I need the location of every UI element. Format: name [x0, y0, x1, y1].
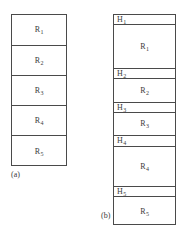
panel-b-header-label-3: H3	[117, 104, 126, 112]
panel-b-header-cell-3: H3	[114, 103, 175, 113]
panel-b-header-label-5: H5	[117, 188, 126, 196]
panel-b-header-cell-2: H2	[114, 69, 175, 79]
panel-b-record-cell-2: R2	[114, 79, 175, 103]
panel-a-record-subscript-5: 5	[40, 151, 43, 157]
panel-b-caption: (b)	[101, 212, 110, 220]
panel-b-header-cell-4: H4	[114, 136, 175, 147]
panel-b-header-cell-5: H5	[114, 187, 175, 197]
panel-b-record-subscript-5: 5	[146, 211, 149, 217]
panel-b-record-subscript-4: 4	[146, 166, 149, 172]
panel-a-record-subscript-1: 1	[40, 29, 43, 35]
panel-a-record-stack: R1R2R3R4R5	[11, 14, 67, 166]
panel-b-header-subscript-5: 5	[123, 191, 126, 197]
panel-b-header-subscript-3: 3	[123, 107, 126, 113]
panel-a-record-cell-3: R3	[12, 76, 66, 106]
panel-b-record-label-4: R4	[140, 163, 149, 171]
panel-a-record-label-4: R4	[35, 117, 44, 125]
panel-a-record-cell-5: R5	[12, 136, 66, 167]
panel-b-record-subscript-3: 3	[146, 123, 149, 129]
figure-canvas: R1R2R3R4R5 (a) H1R1H2R2H3R3H4R4H5R5 (b)	[0, 0, 188, 239]
panel-b-header-subscript-1: 1	[123, 19, 126, 25]
panel-b-record-cell-4: R4	[114, 147, 175, 187]
panel-b-header-label-2: H2	[117, 70, 126, 78]
panel-b-record-cell-3: R3	[114, 113, 175, 136]
panel-b-record-label-2: R2	[140, 87, 149, 95]
panel-a-record-subscript-4: 4	[40, 120, 43, 126]
panel-a-record-subscript-2: 2	[40, 60, 43, 66]
panel-a-record-cell-2: R2	[12, 46, 66, 76]
panel-b-header-subscript-4: 4	[123, 140, 126, 146]
panel-a-record-label-1: R1	[35, 26, 44, 34]
panel-a-record-label-5: R5	[35, 148, 44, 156]
panel-b-header-cell-1: H1	[114, 15, 175, 25]
panel-a-record-label-3: R3	[35, 87, 44, 95]
panel-a-caption: (a)	[11, 171, 20, 179]
panel-b-record-cell-1: R1	[114, 25, 175, 69]
panel-b-record-subscript-1: 1	[146, 46, 149, 52]
panel-b-record-label-3: R3	[140, 120, 149, 128]
panel-b-header-subscript-2: 2	[123, 73, 126, 79]
panel-a-record-label-2: R2	[35, 57, 44, 65]
panel-b-record-cell-5: R5	[114, 197, 175, 226]
panel-b-header-label-4: H4	[117, 137, 126, 145]
panel-a-record-cell-4: R4	[12, 106, 66, 136]
panel-a-record-cell-1: R1	[12, 15, 66, 46]
panel-a-record-subscript-3: 3	[40, 90, 43, 96]
panel-b-record-subscript-2: 2	[146, 90, 149, 96]
panel-b-record-stack: H1R1H2R2H3R3H4R4H5R5	[113, 14, 176, 225]
panel-b-record-label-5: R5	[140, 208, 149, 216]
panel-b-record-label-1: R1	[140, 43, 149, 51]
panel-b-header-label-1: H1	[117, 16, 126, 24]
